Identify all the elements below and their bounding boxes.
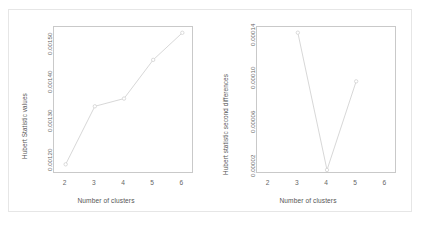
left-plot-svg <box>54 27 194 174</box>
left-plot-area <box>53 26 193 173</box>
figure-root: Hubert Statistic values 0.001200.001300.… <box>0 0 425 226</box>
data-point-marker <box>325 168 328 171</box>
x-tick-label: 5 <box>145 179 159 186</box>
left-x-axis-title: Number of clusters <box>26 197 186 204</box>
y-tick-label: 0.00002 <box>249 154 256 176</box>
y-tick-label: 0.00006 <box>249 111 256 133</box>
left-y-axis-title: Hubert Statistic values <box>21 93 28 159</box>
data-point-marker <box>181 31 184 34</box>
x-tick-label: 5 <box>348 179 362 186</box>
x-tick-label: 4 <box>116 179 130 186</box>
data-point-marker <box>93 105 96 108</box>
x-tick-label: 3 <box>87 179 101 186</box>
x-tick-label: 6 <box>377 179 391 186</box>
chart-panel-hubert-second-differences: Hubert statistic second differences 0.00… <box>210 9 412 212</box>
x-tick-label: 3 <box>290 179 304 186</box>
chart-panel-hubert-statistic-values: Hubert Statistic values 0.001200.001300.… <box>8 9 210 212</box>
y-tick-label: 0.00120 <box>46 148 53 170</box>
data-point-marker <box>151 58 154 61</box>
x-tick-label: 4 <box>319 179 333 186</box>
y-tick-label: 0.00140 <box>46 71 53 93</box>
data-point-marker <box>122 97 125 100</box>
y-tick-label: 0.00014 <box>249 23 256 45</box>
y-tick-label: 0.00010 <box>249 67 256 89</box>
x-tick-label: 2 <box>58 179 72 186</box>
y-tick-label: 0.00130 <box>46 110 53 132</box>
data-point-marker <box>354 80 357 83</box>
right-y-axis-title: Hubert statistic second differences <box>222 74 229 175</box>
y-tick-label: 0.00150 <box>46 32 53 54</box>
data-line <box>298 33 356 170</box>
right-x-axis-title: Number of clusters <box>228 197 388 204</box>
x-tick-label: 6 <box>174 179 188 186</box>
x-tick-label: 2 <box>261 179 275 186</box>
right-plot-svg <box>257 27 397 174</box>
right-plot-area <box>256 26 396 173</box>
data-point-marker <box>64 163 67 166</box>
data-point-marker <box>296 31 299 34</box>
